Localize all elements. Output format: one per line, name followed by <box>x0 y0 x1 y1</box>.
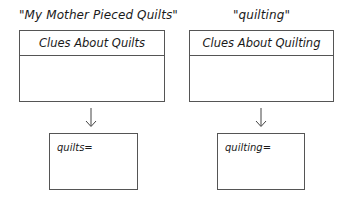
quilt-clues-diagram: "My Mother Pieced Quilts" Clues About Qu… <box>0 0 348 200</box>
right-clue-box: Clues About Quilting <box>189 30 334 102</box>
left-answer-box: quilts= <box>49 133 138 190</box>
left-clue-box: Clues About Quilts <box>19 30 165 102</box>
right-answer-box: quilting= <box>217 133 305 190</box>
right-answer-label: quilting= <box>225 142 271 153</box>
left-answer-label: quilts= <box>57 142 93 153</box>
right-clue-body <box>190 56 333 102</box>
left-clue-body <box>20 56 164 102</box>
left-title: "My Mother Pieced Quilts" <box>19 8 165 22</box>
right-clue-header: Clues About Quilting <box>190 31 333 56</box>
arrow-down-icon <box>85 108 97 128</box>
right-title: "quilting" <box>189 8 334 22</box>
arrow-down-icon <box>255 108 267 128</box>
left-clue-header: Clues About Quilts <box>20 31 164 56</box>
